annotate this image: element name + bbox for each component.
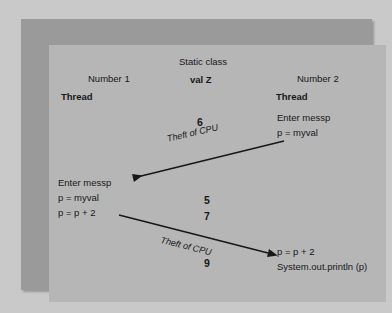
column-header-left-number: Number 1 [88, 74, 130, 85]
annotation-value-7: 7 [204, 211, 210, 223]
column-header-center-static-class: Static class [179, 57, 227, 68]
code-right-top-line1: Enter messp [277, 113, 330, 124]
annotation-value-5: 5 [204, 195, 210, 207]
annotation-value-9: 9 [204, 258, 210, 270]
code-left-middle-line1: Enter messp [58, 178, 111, 189]
column-header-right-thread: Thread [276, 92, 308, 103]
arrow-theft-of-cpu-1 [133, 141, 284, 178]
code-right-bottom-line2: System.out.println (p) [277, 262, 367, 273]
column-header-left-thread: Thread [61, 92, 93, 103]
code-right-top-line2: p = myval [277, 128, 318, 139]
figure-frame: Number 1 Thread Static class val Z Numbe… [21, 19, 372, 290]
column-header-center-val-z: val Z [190, 75, 212, 86]
figure-screenshot: Number 1 Thread Static class val Z Numbe… [0, 0, 392, 313]
code-left-middle-line3: p = p + 2 [58, 208, 96, 219]
column-header-right-number: Number 2 [297, 74, 339, 85]
code-right-bottom-line1: p = p + 2 [277, 247, 315, 258]
code-left-middle-line2: p = myval [58, 193, 99, 204]
diagram-panel: Number 1 Thread Static class val Z Numbe… [49, 45, 386, 302]
